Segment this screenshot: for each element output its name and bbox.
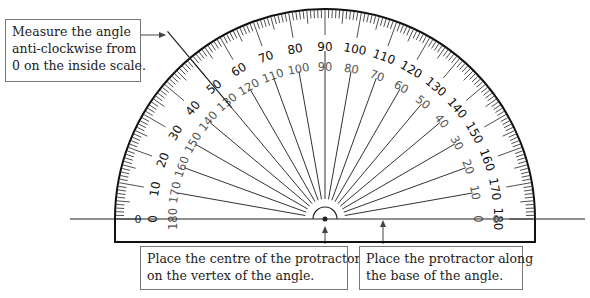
ten-degree-rays [177,51,472,216]
centre-arrowhead [322,226,328,233]
svg-text:100: 100 [342,40,367,58]
base-line-1: Place the protractor along [366,250,516,267]
svg-text:30: 30 [447,133,466,153]
svg-text:120: 120 [236,75,262,98]
svg-text:20: 20 [459,158,477,177]
base-instruction-box: Place the protractor along the base of t… [359,246,523,290]
centre-line-2: on the vertex of the angle. [147,267,341,284]
svg-text:150: 150 [463,119,487,146]
svg-text:170: 170 [486,177,504,202]
svg-text:40: 40 [183,98,204,119]
svg-text:80: 80 [343,61,360,77]
base-line-2: the base of the angle. [366,267,516,284]
measure-line-1: Measure the angle [12,23,134,40]
zero-marker-left: 0 [135,213,142,226]
svg-text:160: 160 [477,147,498,173]
svg-text:60: 60 [391,77,411,96]
svg-text:90: 90 [318,60,333,74]
svg-text:10: 10 [147,180,163,197]
base-arrowhead [380,220,386,227]
svg-text:50: 50 [413,92,433,112]
measure-line-2: anti-clockwise from [12,40,134,57]
svg-text:60: 60 [229,60,249,80]
measure-line-3: 0 on the inside scale. [12,57,134,74]
svg-text:80: 80 [286,41,303,57]
svg-text:150: 150 [181,130,204,156]
svg-text:40: 40 [432,111,452,131]
measure-arrowhead [159,32,166,38]
svg-text:170: 170 [166,180,184,204]
svg-text:70: 70 [256,48,275,66]
svg-text:70: 70 [368,67,387,85]
centre-instruction-box: Place the centre of the protractor on th… [140,246,348,290]
svg-text:160: 160 [171,154,192,179]
svg-text:10: 10 [467,184,483,201]
svg-text:90: 90 [317,40,332,54]
measure-instruction-box: Measure the angle anti-clockwise from 0 … [5,19,141,82]
zero-marker-right: 0 [493,213,500,226]
svg-text:110: 110 [371,46,397,67]
svg-text:110: 110 [260,65,285,86]
svg-text:140: 140 [196,108,221,134]
svg-text:20: 20 [154,150,172,169]
svg-text:30: 30 [166,123,186,143]
centre-line-1: Place the centre of the protractor [147,250,341,267]
svg-text:120: 120 [398,58,425,82]
svg-text:100: 100 [286,60,310,78]
